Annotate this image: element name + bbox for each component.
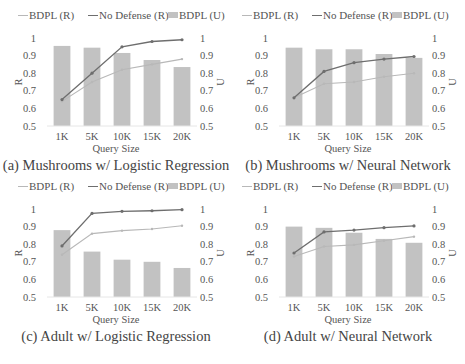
y2-tick-label: 0.9 [200, 221, 213, 232]
data-point-marker [60, 98, 63, 101]
data-point-marker [91, 81, 93, 83]
bar [286, 48, 303, 126]
y-tick-label: 0.9 [23, 50, 36, 61]
bar [346, 49, 363, 126]
y2-tick-label: 0.6 [200, 274, 213, 285]
x-axis-label: Query Size [232, 314, 464, 325]
data-point-marker [90, 212, 93, 215]
data-point-marker [150, 209, 153, 212]
x-tick-label: 10K [345, 131, 364, 142]
y2-tick-label: 0.8 [200, 239, 213, 250]
y2-tick-label: 0.9 [432, 50, 445, 61]
y2-tick-label: 0.7 [200, 256, 213, 267]
bar [174, 67, 191, 126]
y-tick-label: 0.5 [23, 292, 36, 303]
y2-tick-label: 0.8 [432, 239, 445, 250]
data-point-marker [382, 58, 385, 61]
data-point-marker [121, 229, 123, 231]
data-point-marker [180, 38, 183, 41]
bar [316, 49, 333, 126]
data-point-marker [151, 63, 153, 65]
y2-tick-label: 1 [432, 204, 437, 215]
data-point-marker [383, 239, 385, 241]
data-point-marker [151, 228, 153, 230]
x-tick-label: 15K [143, 302, 162, 313]
y2-tick-label: 0.5 [200, 292, 213, 303]
x-tick-label: 10K [113, 131, 132, 142]
data-point-marker [412, 55, 415, 58]
y-tick-label: 0.9 [23, 221, 36, 232]
bar [114, 53, 131, 126]
data-point-marker [322, 70, 325, 73]
x-tick-label: 10K [345, 302, 364, 313]
x-tick-label: 15K [375, 302, 394, 313]
chart-caption: (b) Mushrooms w/ Neural Network [232, 157, 464, 174]
x-tick-label: 15K [375, 131, 394, 142]
data-point-marker [292, 96, 295, 99]
bar [144, 60, 161, 126]
data-point-marker [60, 244, 63, 247]
chart-panel-b: BDPL (R) No Defense (R) BDPL (U) 0.50.50… [232, 0, 464, 182]
data-point-marker [323, 245, 325, 247]
data-point-marker [383, 76, 385, 78]
y-tick-label: 0.7 [23, 85, 36, 96]
y-tick-label: 0.7 [23, 256, 36, 267]
bar [376, 54, 393, 126]
y-tick-label: 0.6 [255, 274, 268, 285]
x-tick-label: 1K [288, 131, 301, 142]
x-tick-label: 5K [86, 131, 99, 142]
data-point-marker [120, 210, 123, 213]
y-axis-label: R [245, 78, 256, 85]
x-tick-label: 5K [318, 131, 331, 142]
bar [376, 239, 393, 297]
y2-axis-label: U [447, 78, 458, 86]
y2-tick-label: 0.5 [200, 121, 213, 132]
chart-panel-a: BDPL (R) No Defense (R) BDPL (U) 0.50.50… [0, 0, 232, 182]
y2-tick-label: 0.5 [432, 121, 445, 132]
y2-tick-label: 1 [200, 204, 205, 215]
x-axis-label: Query Size [0, 143, 232, 154]
data-point-marker [322, 230, 325, 233]
x-axis-label: Query Size [232, 143, 464, 154]
data-point-marker [91, 232, 93, 234]
x-tick-label: 15K [143, 131, 162, 142]
data-point-marker [412, 224, 415, 227]
data-point-marker [413, 72, 415, 74]
y-tick-label: 0.7 [255, 256, 268, 267]
x-tick-label: 1K [288, 302, 301, 313]
bar [406, 58, 423, 126]
data-point-marker [353, 244, 355, 246]
x-tick-label: 20K [173, 302, 192, 313]
bar [144, 262, 161, 297]
x-tick-label: 20K [405, 131, 424, 142]
y-tick-label: 0.8 [23, 239, 36, 250]
x-tick-label: 5K [86, 302, 99, 313]
y2-tick-label: 0.8 [200, 68, 213, 79]
y-tick-label: 0.9 [255, 50, 268, 61]
y2-axis-label: U [215, 249, 226, 257]
chart-caption: (a) Mushrooms w/ Logistic Regression [0, 157, 232, 174]
bar [346, 233, 363, 297]
bar [54, 46, 71, 126]
y-tick-label: 0.8 [23, 68, 36, 79]
y-tick-label: 0.6 [23, 274, 36, 285]
data-point-marker [150, 40, 153, 43]
y2-tick-label: 1 [200, 33, 205, 44]
data-point-marker [180, 208, 183, 211]
x-tick-label: 5K [318, 302, 331, 313]
x-tick-label: 1K [56, 302, 69, 313]
chart-panel-d: BDPL (R) No Defense (R) BDPL (U) 0.50.50… [232, 182, 464, 364]
data-point-marker [292, 251, 295, 254]
x-tick-label: 10K [113, 302, 132, 313]
y-tick-label: 0.6 [255, 103, 268, 114]
y2-axis-label: U [447, 249, 458, 257]
bar [174, 268, 191, 297]
bar [406, 243, 423, 297]
y2-tick-label: 0.7 [200, 85, 213, 96]
x-tick-label: 20K [405, 302, 424, 313]
data-point-marker [352, 61, 355, 64]
y-tick-label: 1 [263, 204, 268, 215]
x-axis-label: Query Size [0, 314, 232, 325]
y2-tick-label: 0.6 [432, 103, 445, 114]
data-point-marker [120, 45, 123, 48]
